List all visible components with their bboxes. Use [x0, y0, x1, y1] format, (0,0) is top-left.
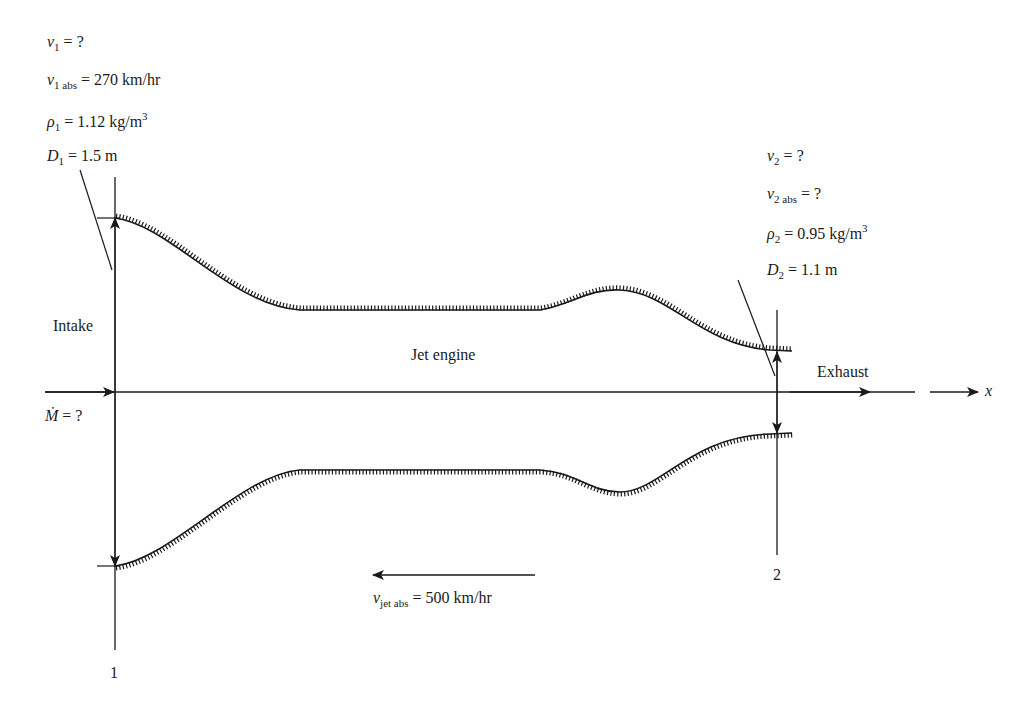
top-wall — [115, 218, 792, 351]
v1-label: ν1=? — [47, 34, 84, 53]
rho2-label: ρ2=0.95 kg/m3 — [767, 223, 868, 245]
v1-abs-label: ν1 abs=270 km/hr — [47, 72, 160, 91]
jet-engine-diagram — [0, 0, 1030, 722]
rho1-label: ρ1=1.12 kg/m3 — [47, 111, 148, 133]
jet-engine-label: Jet engine — [411, 347, 475, 363]
d2-label: D2=1.1 m — [767, 262, 838, 281]
v2-label: ν2=? — [767, 148, 804, 167]
station-1-leader-line — [80, 170, 112, 270]
v2-abs-label: ν2 abs=? — [767, 186, 821, 205]
station-1-number: 1 — [110, 665, 118, 681]
bottom-wall — [115, 433, 792, 566]
jet-velocity-label: νjet abs=500 km/hr — [373, 590, 492, 609]
intake-label: Intake — [53, 318, 93, 334]
x-axis-label: x — [985, 383, 992, 399]
station-2-leader-line — [738, 280, 775, 376]
bottom-wall-hatch — [116, 435, 793, 568]
station-2-number: 2 — [773, 567, 781, 583]
exhaust-label: Exhaust — [817, 364, 869, 380]
top-wall-hatch — [116, 216, 793, 349]
mass-flow-label: Ṁ=? — [45, 408, 82, 424]
d1-label: D1=1.5 m — [47, 148, 118, 167]
